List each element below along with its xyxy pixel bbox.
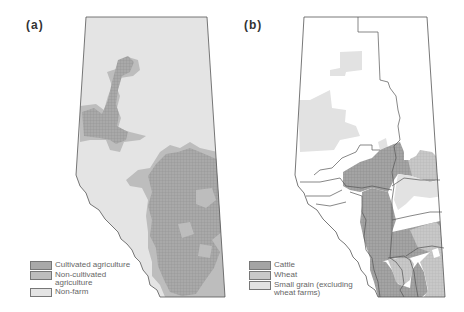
legend-b-item-smallgrain: Small grain (excluding wheat farms) bbox=[249, 281, 353, 297]
swatch-cultivated bbox=[30, 261, 52, 270]
swatch-noncultivated bbox=[30, 271, 52, 280]
map-a bbox=[76, 17, 225, 297]
legend-a-item-nonfarm: Non-farm bbox=[30, 288, 130, 297]
legend-a-item-cultivated: Cultivated agriculture bbox=[30, 261, 130, 270]
swatch-smallgrain bbox=[249, 281, 271, 290]
legend-a-label-1: Non-cultivated agriculture bbox=[55, 271, 106, 287]
legend-a-label-2: Non-farm bbox=[55, 288, 88, 296]
legend-b-label-1: Wheat bbox=[274, 271, 297, 279]
swatch-nonfarm bbox=[30, 288, 52, 297]
legend-b-item-wheat: Wheat bbox=[249, 271, 353, 280]
legend-a-label-0: Cultivated agriculture bbox=[55, 261, 130, 269]
panel-b-label: (b) bbox=[244, 18, 262, 32]
legend-b-item-cattle: Cattle bbox=[249, 261, 353, 270]
legend-b-label-0: Cattle bbox=[274, 261, 295, 269]
legend-b: Cattle Wheat Small grain (excluding whea… bbox=[249, 261, 353, 298]
panel-a-label: (a) bbox=[26, 18, 44, 32]
legend-b-label-2: Small grain (excluding wheat farms) bbox=[274, 281, 353, 297]
swatch-wheat bbox=[249, 271, 271, 280]
map-b bbox=[295, 17, 445, 297]
legend-a-item-noncultivated: Non-cultivated agriculture bbox=[30, 271, 130, 287]
legend-a: Cultivated agriculture Non-cultivated ag… bbox=[30, 261, 130, 298]
swatch-cattle bbox=[249, 261, 271, 270]
